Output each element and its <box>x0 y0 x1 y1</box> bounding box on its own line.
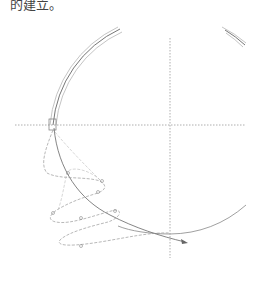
upper-left-arc <box>50 27 122 125</box>
trajectory-curve <box>54 128 185 242</box>
arrow-head-icon <box>181 239 188 244</box>
spiral-curve <box>44 130 170 245</box>
spiral-nodes <box>52 172 117 248</box>
lower-arc <box>118 205 246 234</box>
spiral-inner-curve <box>55 132 100 210</box>
upper-right-arc <box>222 27 246 47</box>
diagram-canvas <box>0 0 268 307</box>
